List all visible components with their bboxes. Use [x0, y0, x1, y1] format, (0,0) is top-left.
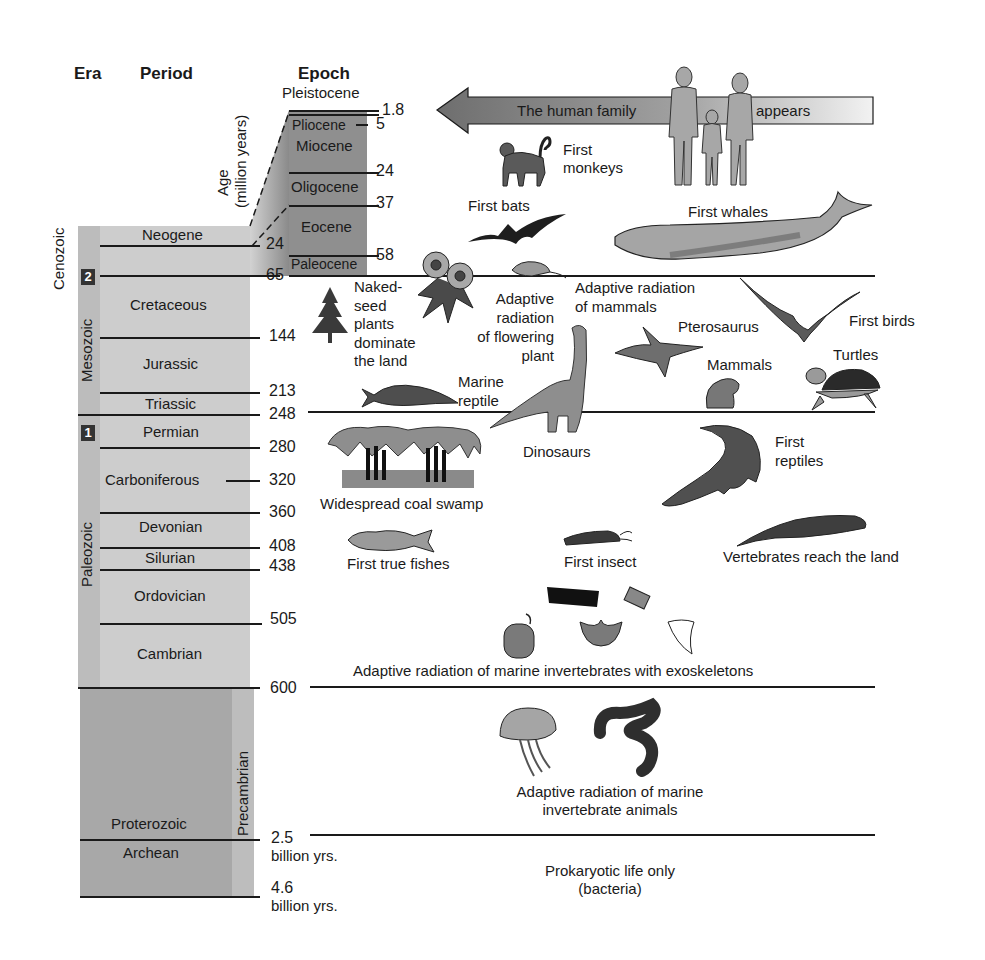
event-prokaryotic: Prokaryotic life only (bacteria) — [500, 862, 720, 898]
event-coal-swamp: Widespread coal swamp — [320, 495, 483, 512]
human-family-icon — [664, 65, 764, 190]
insect-icon — [562, 527, 634, 549]
horn-coral-icon — [664, 618, 700, 656]
event-first-birds: First birds — [849, 312, 915, 329]
event-first-monkeys: First monkeys — [563, 141, 623, 177]
event-first-fishes: First true fishes — [347, 555, 450, 572]
bird-icon — [738, 276, 863, 346]
event-mammal-radiation: Adaptive radiation of mammals — [575, 278, 695, 316]
event-first-bats: First bats — [468, 197, 530, 214]
event-first-insect: First insect — [564, 553, 637, 570]
event-marine-exoskeletons: Adaptive radiation of marine invertebrat… — [353, 662, 753, 679]
turtle-icon — [802, 362, 882, 412]
event-first-reptiles: First reptiles — [775, 432, 823, 470]
arrow-text-right: appears — [756, 102, 810, 119]
event-dinosaurs: Dinosaurs — [523, 443, 591, 460]
fish-icon — [346, 526, 436, 554]
reptile-icon — [660, 420, 770, 510]
mouse-icon — [510, 256, 570, 281]
jellyfish-icon — [498, 706, 568, 776]
shell-icon — [578, 618, 624, 648]
event-naked-seed-plants: Naked- seed plants dominate the land — [354, 278, 416, 371]
whale-icon — [610, 187, 875, 267]
amphibian-icon — [735, 508, 870, 548]
pine-tree-icon — [308, 285, 353, 347]
crustacean-icon — [618, 583, 658, 615]
event-vertebrates-land: Vertebrates reach the land — [723, 548, 899, 565]
brachiopod-icon — [500, 612, 540, 662]
marine-reptile-icon — [360, 377, 460, 409]
event-marine-invertebrates: Adaptive radiation of marine invertebrat… — [460, 783, 760, 819]
dinosaur-icon — [488, 320, 598, 440]
arrow-text-left: The human family — [517, 102, 636, 119]
event-turtles: Turtles — [833, 346, 878, 363]
worm-icon — [594, 703, 664, 773]
trilobite-icon — [545, 583, 601, 611]
coal-swamp-icon — [328, 424, 488, 490]
monkey-icon — [495, 128, 555, 188]
event-mammals: Mammals — [707, 356, 772, 373]
mammal-icon — [703, 374, 743, 410]
